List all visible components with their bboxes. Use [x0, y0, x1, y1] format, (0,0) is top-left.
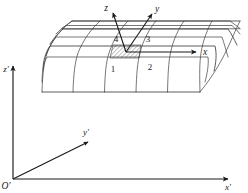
node-label-4: 4 — [114, 34, 119, 44]
mesh-surface-fill — [42, 21, 240, 92]
local-y-axis-label: y — [154, 4, 160, 14]
local-x-axis-label: x — [202, 47, 208, 57]
shell-element-figure: z y x 1 2 3 4 z' y' x' O' — [0, 0, 248, 193]
node-label-1: 1 — [111, 64, 116, 74]
local-z-axis-label: z — [103, 3, 108, 13]
node-label-2: 2 — [148, 62, 153, 72]
global-origin-label: O' — [2, 181, 12, 191]
global-y-axis — [13, 142, 88, 179]
figure-canvas: z y x 1 2 3 4 z' y' x' O' — [0, 0, 248, 193]
global-z-axis-label: z' — [2, 64, 10, 74]
shell-mesh — [42, 21, 240, 92]
node-label-3: 3 — [146, 34, 151, 44]
global-y-axis-label: y' — [82, 127, 90, 137]
global-x-axis-label: x' — [224, 182, 232, 192]
